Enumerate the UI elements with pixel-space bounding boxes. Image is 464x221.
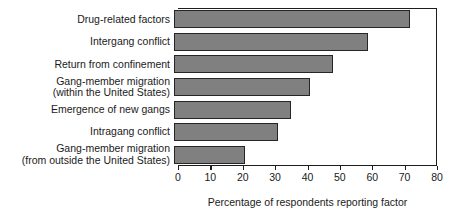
x-axis-tick	[210, 166, 211, 170]
bar-row: Return from confinement	[0, 55, 464, 73]
x-axis-tick	[340, 166, 341, 170]
bar	[174, 78, 310, 96]
x-axis-title: Percentage of respondents reporting fact…	[178, 196, 437, 208]
bar-row: Drug-related factors	[0, 10, 464, 28]
bar-track	[174, 123, 433, 141]
x-axis-tick-label: 70	[399, 171, 411, 183]
x-axis-tick-label: 80	[431, 171, 443, 183]
bar-chart-figure: Drug-related factorsIntergang conflictRe…	[0, 0, 464, 221]
bar-category-label: Drug-related factors	[0, 14, 174, 25]
x-axis-tick-label: 20	[237, 171, 249, 183]
bar-track	[174, 55, 433, 73]
bar-rows: Drug-related factorsIntergang conflictRe…	[0, 8, 464, 166]
bar	[174, 101, 291, 119]
bar-category-label: Gang-member migration (from outside the …	[0, 143, 174, 166]
bar-row: Emergence of new gangs	[0, 101, 464, 119]
x-axis-tick-label: 10	[205, 171, 217, 183]
bar-track	[174, 78, 433, 96]
bar-track	[174, 33, 433, 51]
bar	[174, 123, 278, 141]
bar-track	[174, 146, 433, 164]
x-axis-tick	[372, 166, 373, 170]
x-axis-tick-label: 40	[302, 171, 314, 183]
x-axis-tick-label: 0	[175, 171, 181, 183]
x-axis-tick	[437, 166, 438, 170]
bar-category-label: Emergence of new gangs	[0, 104, 174, 115]
bar	[174, 10, 410, 28]
x-axis-tick	[308, 166, 309, 170]
bar-track	[174, 101, 433, 119]
bar-row: Gang-member migration (from outside the …	[0, 146, 464, 164]
bar-row: Intergang conflict	[0, 33, 464, 51]
x-axis-tick	[243, 166, 244, 170]
bar	[174, 33, 368, 51]
bar-row: Gang-member migration (within the United…	[0, 78, 464, 96]
x-axis-tick	[275, 166, 276, 170]
bar-category-label: Intragang conflict	[0, 126, 174, 137]
bar	[174, 146, 245, 164]
bar-track	[174, 10, 433, 28]
x-axis-tick	[178, 166, 179, 170]
bar-category-label: Gang-member migration (within the United…	[0, 76, 174, 99]
bar	[174, 55, 333, 73]
x-axis-tick	[405, 166, 406, 170]
bar-row: Intragang conflict	[0, 123, 464, 141]
x-axis-tick-label: 50	[334, 171, 346, 183]
x-axis-tick-label: 30	[269, 171, 281, 183]
x-axis-tick-label: 60	[366, 171, 378, 183]
bar-category-label: Return from confinement	[0, 59, 174, 70]
bar-category-label: Intergang conflict	[0, 36, 174, 47]
